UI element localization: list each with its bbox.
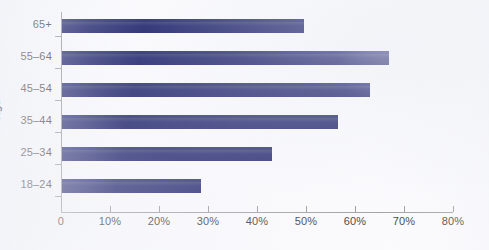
y-tick-label: 65+ (33, 18, 52, 30)
y-axis-tick (55, 132, 61, 133)
bar-highlight (61, 182, 201, 186)
x-tick-label: 50% (281, 215, 331, 227)
bar (61, 19, 304, 33)
x-axis-tick (306, 206, 307, 212)
y-tick-label: 25–34 (20, 146, 52, 158)
bar (61, 179, 201, 193)
x-axis-tick (355, 206, 356, 212)
bar-chart: Age 65+ 55–64 45–54 35–44 25–34 18–24 01… (0, 0, 489, 250)
x-axis-tick (159, 206, 160, 212)
x-axis-tick (404, 206, 405, 212)
x-tick-label: 30% (183, 215, 233, 227)
x-axis-tick (453, 206, 454, 212)
y-axis-tick (55, 68, 61, 69)
y-axis-tick (55, 100, 61, 101)
x-tick-label: 40% (232, 215, 282, 227)
x-axis-tick (208, 206, 209, 212)
bar (61, 51, 389, 65)
x-axis-tick (110, 206, 111, 212)
y-tick-label: 45–54 (20, 82, 52, 94)
bar-highlight (61, 22, 304, 26)
y-axis-tick (55, 36, 61, 37)
x-tick-label: 60% (330, 215, 380, 227)
y-axis-line (61, 12, 62, 212)
y-axis-tick (55, 164, 61, 165)
bar-highlight (61, 150, 272, 154)
x-tick-label: 80% (428, 215, 478, 227)
y-tick-label: 35–44 (20, 114, 52, 126)
bar (61, 147, 272, 161)
bar-highlight (61, 54, 389, 58)
y-axis-labels: 65+ 55–64 45–54 35–44 25–34 18–24 (0, 0, 52, 250)
x-axis-tick (257, 206, 258, 212)
x-tick-label: 0 (36, 215, 86, 227)
x-axis-tick (61, 206, 62, 212)
bar (61, 83, 370, 97)
y-axis-tick (55, 196, 61, 197)
x-tick-label: 20% (134, 215, 184, 227)
bar-highlight (61, 86, 370, 90)
y-tick-label: 18–24 (20, 178, 52, 190)
bar-highlight (61, 118, 338, 122)
x-tick-label: 70% (379, 215, 429, 227)
x-tick-label: 10% (85, 215, 135, 227)
y-tick-label: 55–64 (20, 50, 52, 62)
x-axis-line (61, 212, 453, 213)
bar (61, 115, 338, 129)
